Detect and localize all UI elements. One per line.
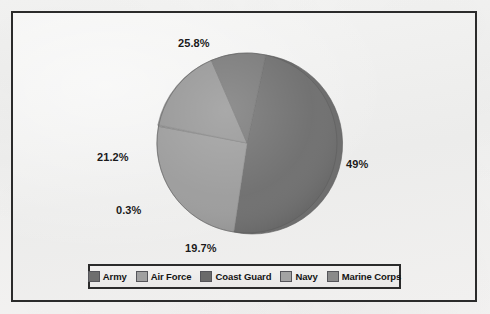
legend-label-coast-guard: Coast Guard: [215, 271, 271, 282]
legend-swatch-marine-corps: [327, 271, 339, 282]
pie-label-navy: 19.7%: [185, 242, 217, 254]
legend-item-navy[interactable]: Navy: [280, 271, 317, 282]
legend-item-air-force[interactable]: Air Force: [136, 271, 192, 282]
legend-swatch-army: [88, 271, 100, 282]
pie-label-coast-guard: 0.3%: [116, 204, 141, 216]
legend-label-army: Army: [103, 271, 127, 282]
chart-frame: 25.8% 49% 21.2% 0.3% 19.7%: [11, 11, 477, 302]
pie-chart-svg: [13, 13, 475, 300]
pie-label-marine-corps: 25.8%: [178, 37, 210, 49]
chart-legend: Army Air Force Coast Guard Navy Marine C…: [88, 264, 401, 289]
legend-swatch-navy: [280, 271, 292, 282]
pie-shading-overlay: [157, 53, 337, 233]
legend-label-air-force: Air Force: [151, 271, 192, 282]
legend-label-marine-corps: Marine Corps: [342, 271, 402, 282]
pie-label-air-force: 21.2%: [97, 151, 129, 163]
legend-item-army[interactable]: Army: [88, 271, 127, 282]
legend-swatch-coast-guard: [200, 271, 212, 282]
pie-label-army: 49%: [346, 158, 368, 170]
legend-item-coast-guard[interactable]: Coast Guard: [200, 271, 271, 282]
pie-chart-plot-area: 25.8% 49% 21.2% 0.3% 19.7%: [13, 13, 475, 300]
legend-item-marine-corps[interactable]: Marine Corps: [327, 271, 402, 282]
legend-label-navy: Navy: [295, 271, 317, 282]
legend-swatch-air-force: [136, 271, 148, 282]
